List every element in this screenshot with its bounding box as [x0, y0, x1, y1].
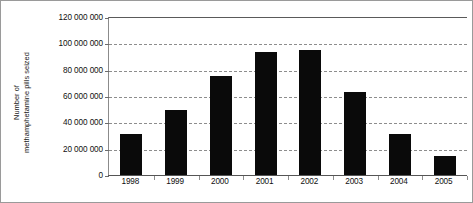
bar-chart-figure: Number of methamphetamine pills seized 0…: [0, 0, 473, 203]
y-axis-tick-label: 20 000 000: [63, 144, 103, 153]
bar-slot: [378, 18, 423, 176]
plot-area: [108, 17, 467, 176]
bar[interactable]: [299, 50, 321, 176]
bar-slot: [288, 18, 333, 176]
y-axis-tick-label: 60 000 000: [63, 92, 103, 101]
bar-series: [109, 18, 467, 176]
y-axis-tick-label: 120 000 000: [59, 13, 103, 22]
y-axis-tickmark: [105, 150, 109, 151]
y-axis-tick-labels: 020 000 00040 000 00060 000 00080 000 00…: [27, 17, 103, 175]
y-axis-tick-label: 80 000 000: [63, 65, 103, 74]
bar[interactable]: [255, 52, 277, 176]
x-axis-tick-label: 1999: [153, 177, 198, 186]
bar[interactable]: [344, 92, 366, 176]
x-axis-tick-label: 2004: [377, 177, 422, 186]
x-axis-tick-label: 1998: [108, 177, 153, 186]
bar[interactable]: [389, 134, 411, 176]
y-axis-tick-label: 100 000 000: [59, 39, 103, 48]
plot-inner: [109, 18, 467, 176]
y-axis-title-line-1: Number of: [12, 85, 21, 120]
x-axis-tick-label: 2005: [421, 177, 466, 186]
y-axis-tick-label: 0: [99, 171, 103, 180]
bar-slot: [199, 18, 244, 176]
x-axis-line: [108, 175, 467, 176]
y-axis-tickmark: [105, 123, 109, 124]
y-axis-tickmark: [105, 18, 109, 19]
y-axis-tickmark: [105, 97, 109, 98]
bar[interactable]: [120, 134, 142, 176]
bar-slot: [243, 18, 288, 176]
y-axis-tickmark: [105, 71, 109, 72]
x-axis-tick-label: 2002: [287, 177, 332, 186]
bar-slot: [154, 18, 199, 176]
bar[interactable]: [165, 110, 187, 176]
bar[interactable]: [210, 76, 232, 176]
bar[interactable]: [434, 156, 456, 176]
x-axis-tick-labels: 19981999200020012002200320042005: [108, 177, 466, 186]
x-axis-tick-label: 2000: [198, 177, 243, 186]
x-axis-tick-label: 2003: [332, 177, 377, 186]
y-axis-tickmark: [105, 44, 109, 45]
bar-slot: [422, 18, 467, 176]
x-axis-tickmark: [467, 176, 468, 180]
bar-slot: [333, 18, 378, 176]
x-axis-tick-label: 2001: [242, 177, 287, 186]
y-axis-tick-label: 40 000 000: [63, 118, 103, 127]
bar-slot: [109, 18, 154, 176]
